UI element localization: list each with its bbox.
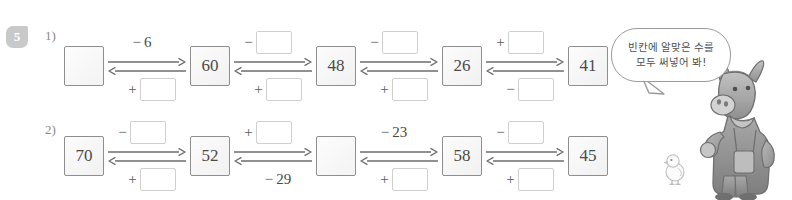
operator-sign: − (370, 35, 378, 50)
bidirectional-arrow-icon (486, 58, 564, 75)
operation-link: − + (482, 112, 568, 200)
operation-link: − + (356, 22, 442, 110)
operation-link: −23 + (356, 112, 442, 200)
operation-link: − + (230, 22, 316, 110)
operator-sign: − (506, 82, 514, 97)
operator-sign: + (380, 82, 388, 97)
answer-box[interactable] (508, 121, 544, 144)
operation-link: + − (482, 22, 568, 110)
value-box: 45 (568, 136, 608, 176)
operator-sign: − (265, 172, 273, 187)
value-box: 58 (442, 136, 482, 176)
worksheet-page: 5 1) 2) −6 +60− +48− +26+ −41 70− +52+ −… (0, 0, 792, 200)
operation-link: − + (104, 112, 190, 200)
equation-row-1: −6 +60− +48− +26+ −41 (64, 22, 608, 110)
answer-box[interactable] (518, 78, 554, 101)
value-box: 52 (190, 136, 230, 176)
answer-box[interactable] (140, 168, 176, 191)
answer-box[interactable] (140, 78, 176, 101)
operator-sign: + (380, 172, 388, 187)
value-box-blank[interactable] (64, 46, 104, 86)
operator-sign: + (244, 125, 252, 140)
bidirectional-arrow-icon (234, 58, 312, 75)
operation-link: + −29 (230, 112, 316, 200)
hint-speech-bubble: 빈칸에 알맞은 수를 모두 써넣어 봐! (611, 28, 731, 82)
hint-line-1: 빈칸에 알맞은 수를 (628, 40, 715, 55)
bidirectional-arrow-icon (486, 148, 564, 165)
operator-sign: − (381, 125, 389, 140)
operator-sign: − (118, 125, 126, 140)
sub-problem-label-2: 2) (45, 122, 56, 138)
value-box: 70 (64, 136, 104, 176)
operand-value: 23 (392, 124, 407, 141)
answer-box[interactable] (256, 121, 292, 144)
value-box: 60 (190, 46, 230, 86)
operand-value: 6 (144, 34, 152, 51)
answer-box[interactable] (256, 31, 292, 54)
operator-sign: − (496, 125, 504, 140)
answer-box[interactable] (392, 168, 428, 191)
bidirectional-arrow-icon (108, 58, 186, 75)
operator-sign: + (128, 172, 136, 187)
answer-box[interactable] (392, 78, 428, 101)
value-box-blank[interactable] (316, 136, 356, 176)
operator-sign: − (244, 35, 252, 50)
value-box: 41 (568, 46, 608, 86)
value-box: 26 (442, 46, 482, 86)
answer-box[interactable] (130, 121, 166, 144)
operator-sign: − (133, 35, 141, 50)
chick-illustration (660, 150, 690, 186)
answer-box[interactable] (266, 78, 302, 101)
bidirectional-arrow-icon (360, 58, 438, 75)
equation-row-2: 70− +52+ −29−23 +58− +45 (64, 112, 608, 200)
answer-box[interactable] (382, 31, 418, 54)
sub-problem-label-1: 1) (45, 28, 56, 44)
operation-link: −6 + (104, 22, 190, 110)
operator-sign: + (254, 82, 262, 97)
answer-box[interactable] (518, 168, 554, 191)
operand-value: 29 (276, 171, 291, 188)
operator-sign: + (128, 82, 136, 97)
bidirectional-arrow-icon (234, 148, 312, 165)
bidirectional-arrow-icon (360, 148, 438, 165)
operator-sign: + (506, 172, 514, 187)
operator-sign: + (496, 35, 504, 50)
answer-box[interactable] (508, 31, 544, 54)
bidirectional-arrow-icon (108, 148, 186, 165)
value-box: 48 (316, 46, 356, 86)
problem-number-badge: 5 (6, 26, 28, 48)
hint-line-2: 모두 써넣어 봐! (636, 55, 707, 70)
